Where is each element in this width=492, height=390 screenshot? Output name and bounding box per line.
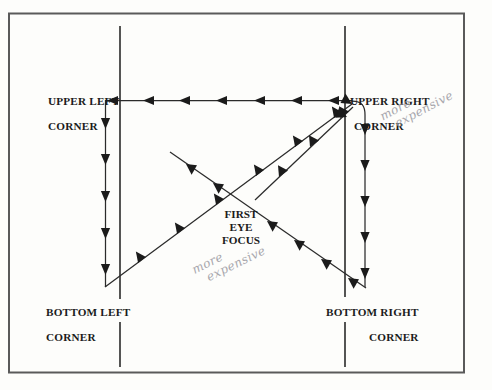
guide-lines xyxy=(120,26,345,367)
label-center-line1: FIRST xyxy=(198,208,284,221)
label-bottom-left-line1: BOTTOM LEFT xyxy=(46,306,130,318)
label-bottom-left-line2: CORNER xyxy=(46,331,96,343)
label-upper-left-corner: UPPER LEFT CORNER xyxy=(36,82,119,145)
label-upper-left-line2: CORNER xyxy=(48,120,98,132)
label-bottom-left-corner: BOTTOM LEFT CORNER xyxy=(34,293,130,356)
label-bottom-right-line2: CORNER xyxy=(314,331,419,344)
diagram-canvas: UPPER LEFT CORNER UPPER RIGHT CORNER BOT… xyxy=(0,0,492,390)
label-bottom-right-line1: BOTTOM RIGHT xyxy=(326,306,419,318)
label-upper-left-line1: UPPER LEFT xyxy=(48,95,119,107)
label-center-line2: EYE xyxy=(198,221,284,234)
label-bottom-right-corner: BOTTOM RIGHT CORNER xyxy=(314,293,419,369)
